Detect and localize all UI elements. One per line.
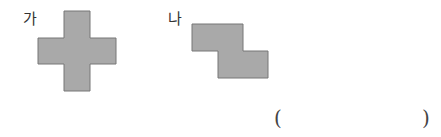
open-paren: ( [274, 108, 282, 128]
figure-ga-cross [38, 11, 116, 91]
figure-na-zigzag [192, 24, 268, 78]
close-paren: ) [422, 108, 430, 128]
figure-label-na: 나 [168, 12, 182, 27]
answer-input[interactable] [285, 108, 421, 128]
